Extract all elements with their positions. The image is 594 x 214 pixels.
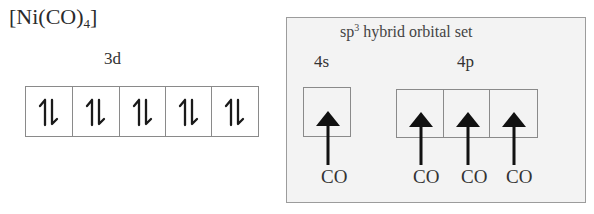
- ligand-label-4s: CO: [321, 167, 347, 187]
- orbital-cell-3d-5: [212, 87, 259, 136]
- paired-electrons-icon: [130, 97, 156, 127]
- complex-formula: [Ni(CO)4]: [9, 4, 97, 30]
- orbital-cell-3d-3: [120, 87, 166, 136]
- arrow-up-icon: [315, 111, 341, 166]
- ligand-label-4p-2: CO: [461, 167, 487, 187]
- paired-electrons-icon: [222, 97, 248, 127]
- orbital-cell-3d-2: [73, 87, 120, 136]
- orbital-cell-3d-4: [166, 87, 212, 136]
- orbital-label-3d: 3d: [104, 49, 121, 69]
- orbital-cell-3d-1: [26, 87, 73, 136]
- ligand-label-4p-1: CO: [413, 167, 439, 187]
- ligand-arrow-4p-3: [501, 112, 527, 166]
- arrow-up-icon: [408, 112, 434, 166]
- paired-electrons-icon: [83, 97, 109, 127]
- ligand-label-4p-3: CO: [506, 167, 532, 187]
- arrow-up-icon: [501, 112, 527, 166]
- orbital-label-4p: 4p: [457, 52, 474, 72]
- arrow-up-icon: [455, 112, 481, 166]
- ligand-arrow-4p-1: [408, 112, 434, 166]
- paired-electrons-icon: [176, 97, 202, 127]
- panel-title-suffix: hybrid orbital set: [359, 23, 472, 40]
- formula-close: ]: [90, 4, 97, 29]
- ligand-arrow-4s: [315, 111, 341, 166]
- orbital-box-3d: [25, 86, 259, 137]
- ligand-arrow-4p-2: [455, 112, 481, 166]
- formula-main: [Ni(CO): [9, 4, 84, 29]
- orbital-label-4s: 4s: [314, 52, 329, 72]
- panel-title: sp3 hybrid orbital set: [340, 23, 473, 41]
- paired-electrons-icon: [36, 97, 62, 127]
- panel-title-prefix: sp: [340, 23, 354, 40]
